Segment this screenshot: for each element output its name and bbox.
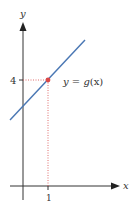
- x-tick-label: 1: [46, 193, 52, 203]
- graph-canvas: y x 4 1 y = g(x): [0, 0, 135, 211]
- curve-label: y = g(x): [62, 76, 103, 87]
- y-axis-arrow-icon: [20, 22, 27, 31]
- y-tick-label: 4: [10, 75, 16, 86]
- x-axis-label: x: [123, 180, 129, 191]
- x-axis-arrow-icon: [111, 183, 120, 190]
- highlighted-point: [46, 78, 51, 83]
- y-axis-label: y: [19, 8, 26, 19]
